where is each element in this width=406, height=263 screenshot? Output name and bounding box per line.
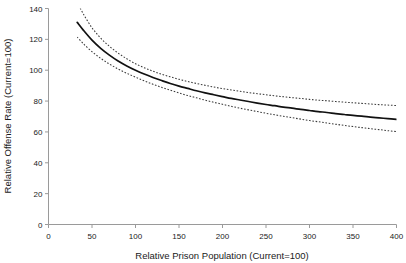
y-tick-label: 20	[34, 190, 43, 199]
x-axis-title: Relative Prison Population (Current=100)	[135, 250, 308, 261]
x-axis-ticks: 050100150200250300350400	[46, 225, 403, 241]
x-tick-label: 250	[259, 232, 273, 241]
series-line-confidence-band	[77, 2, 396, 105]
y-axis-ticks: 020406080100120140	[29, 5, 48, 230]
chart-plot-area: 020406080100120140 050100150200250300350…	[0, 0, 406, 263]
x-tick-label: 400	[390, 232, 404, 241]
y-tick-label: 80	[34, 97, 43, 106]
series-line-confidence-band	[77, 37, 396, 132]
x-tick-label: 350	[346, 232, 360, 241]
x-tick-label: 300	[303, 232, 317, 241]
series-line-estimate	[77, 22, 396, 119]
y-tick-label: 120	[29, 35, 43, 44]
x-tick-label: 100	[129, 232, 143, 241]
data-series-group	[77, 2, 396, 131]
y-tick-label: 0	[38, 221, 43, 230]
x-tick-label: 200	[216, 232, 230, 241]
axes-group	[49, 9, 397, 225]
x-tick-label: 150	[172, 232, 186, 241]
y-tick-label: 140	[29, 5, 43, 14]
y-axis-title: Relative Offense Rate (Current=100)	[2, 39, 13, 194]
y-tick-label: 60	[34, 128, 43, 137]
x-tick-label: 0	[46, 232, 51, 241]
chart-figure: 020406080100120140 050100150200250300350…	[0, 0, 406, 263]
y-tick-label: 40	[34, 159, 43, 168]
y-tick-label: 100	[29, 66, 43, 75]
x-tick-label: 50	[88, 232, 97, 241]
